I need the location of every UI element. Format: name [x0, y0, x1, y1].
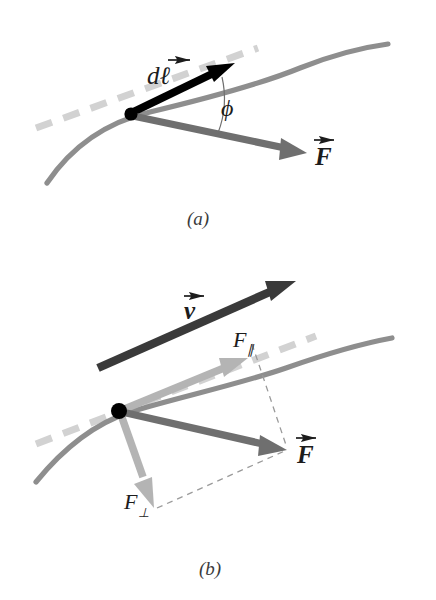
- label-force-b: F: [296, 438, 316, 468]
- panel-caption-b: (b): [199, 558, 221, 580]
- label-force-parallel-sub-b: ∥: [247, 342, 255, 357]
- label-angle-phi-a: ϕ: [221, 95, 233, 121]
- label-force-perp-sub-b: ⊥: [138, 505, 149, 520]
- force-vector-a: [133, 116, 307, 160]
- label-force-parallel-base-b: F: [232, 327, 247, 352]
- label-force-text-a: F: [314, 143, 332, 170]
- panel-a-group: dℓ ϕ F (a): [36, 44, 388, 230]
- label-displacement-text-a: dℓ: [147, 62, 171, 89]
- label-force-parallel-b: F ∥: [232, 327, 255, 357]
- construction-line-perp-b: [157, 450, 287, 508]
- label-force-perp-base-b: F: [123, 489, 138, 514]
- path-curve-b: [36, 338, 392, 482]
- panel-b-group: v F ∥ F ⊥ F (b): [36, 281, 392, 580]
- label-force-text-b: F: [296, 441, 314, 468]
- physics-figure-root: dℓ ϕ F (a): [0, 0, 436, 600]
- label-velocity-text-b: v: [184, 297, 196, 324]
- label-force-a: F: [314, 140, 334, 170]
- construction-line-parallel-b: [252, 344, 287, 448]
- path-point-dot-b: [111, 403, 127, 419]
- panel-caption-a: (a): [187, 208, 209, 230]
- force-vector-b: [122, 412, 287, 456]
- vector-diagram-svg: dℓ ϕ F (a): [0, 0, 436, 600]
- path-point-dot-a: [124, 107, 137, 120]
